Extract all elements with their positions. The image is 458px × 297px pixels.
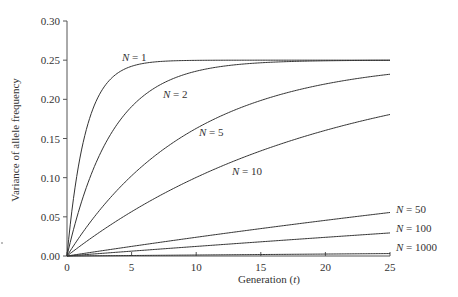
x-axis-label-pre: Generation ( — [238, 273, 294, 286]
curve-n1 — [67, 60, 390, 256]
variance-chart: 0.000.050.100.150.200.250.30 0510152025 … — [0, 0, 458, 297]
x-tick-label: 0 — [64, 261, 70, 273]
y-tick-label: 0.15 — [41, 133, 61, 145]
stray-mark — [1, 242, 3, 244]
series-curves — [67, 60, 390, 256]
series-label: N = 50 — [395, 203, 427, 215]
x-tick-label: 5 — [129, 261, 135, 273]
y-tick-label: 0.10 — [41, 172, 61, 184]
y-tick-label: 0.20 — [41, 93, 61, 105]
y-tick-label: 0.00 — [41, 250, 61, 262]
y-tick-label: 0.30 — [41, 15, 61, 27]
curve-n50 — [67, 212, 390, 256]
x-tick-label: 25 — [385, 261, 397, 273]
curve-n2 — [67, 60, 390, 256]
y-axis-label: Variance of allele frequency — [9, 78, 21, 202]
series-label: N = 1000 — [395, 241, 438, 253]
curve-n10 — [67, 114, 390, 256]
series-label: N = 2 — [162, 88, 188, 100]
x-axis-label-post: ) — [296, 273, 300, 286]
series-label: N = 10 — [231, 165, 263, 177]
x-tick-label: 20 — [320, 261, 332, 273]
series-label: N = 5 — [198, 126, 224, 138]
x-tick-label: 15 — [255, 261, 267, 273]
series-labels: N = 1N = 2N = 5N = 10N = 50N = 100N = 10… — [121, 51, 438, 253]
x-tick-label: 10 — [191, 261, 203, 273]
y-tick-label: 0.25 — [41, 54, 61, 66]
series-label: N = 100 — [395, 222, 432, 234]
curve-n5 — [67, 74, 390, 256]
y-axis: 0.000.050.100.150.200.250.30 — [41, 15, 67, 262]
y-tick-label: 0.05 — [41, 211, 61, 223]
series-label: N = 1 — [121, 51, 147, 63]
curve-n100 — [67, 233, 390, 256]
x-axis-label: Generation (t) — [238, 273, 300, 286]
